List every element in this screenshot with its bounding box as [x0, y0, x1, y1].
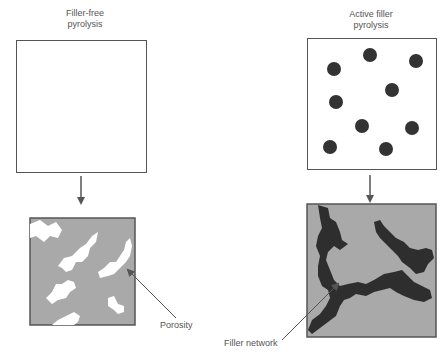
diagram-graphics	[0, 0, 446, 356]
filler-network-label: Filler network	[224, 338, 294, 349]
porosity-label: Porosity	[160, 320, 210, 331]
porous-ceramic-product	[30, 218, 135, 325]
filler-network-product	[307, 204, 436, 337]
filler-particles	[323, 48, 423, 156]
